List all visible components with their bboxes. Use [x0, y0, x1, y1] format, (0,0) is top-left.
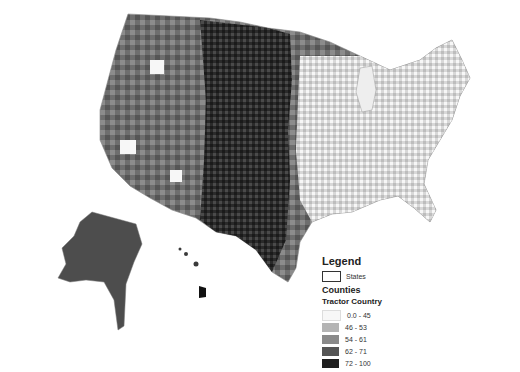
legend-title: Legend	[322, 255, 432, 267]
layer-title: Tractor Country	[322, 297, 432, 306]
hawaii	[179, 248, 207, 299]
class-swatch	[322, 335, 339, 344]
class-label: 0.0 - 45	[347, 312, 371, 319]
legend-class-row: 46 - 53	[322, 321, 432, 333]
map-legend: Legend States Counties Tractor Country 0…	[322, 255, 432, 369]
class-label: 72 - 100	[345, 360, 371, 367]
legend-classes: 0.0 - 45 46 - 53 54 - 61 62 - 71 72 - 10…	[322, 309, 432, 369]
legend-states-row: States	[322, 271, 432, 282]
alaska	[58, 212, 142, 330]
states-label: States	[346, 273, 366, 280]
legend-class-row: 72 - 100	[322, 357, 432, 369]
class-label: 54 - 61	[345, 336, 367, 343]
contiguous-us	[100, 14, 470, 282]
counties-label: Counties	[322, 285, 432, 295]
class-swatch	[322, 310, 341, 321]
legend-class-row: 62 - 71	[322, 345, 432, 357]
choropleth-map	[0, 0, 520, 372]
class-label: 46 - 53	[345, 324, 367, 331]
states-outline-swatch	[322, 271, 341, 282]
legend-class-row: 54 - 61	[322, 333, 432, 345]
class-swatch	[322, 323, 339, 332]
class-swatch	[322, 359, 339, 368]
legend-class-row: 0.0 - 45	[322, 309, 432, 321]
class-label: 62 - 71	[345, 348, 367, 355]
class-swatch	[322, 347, 339, 356]
